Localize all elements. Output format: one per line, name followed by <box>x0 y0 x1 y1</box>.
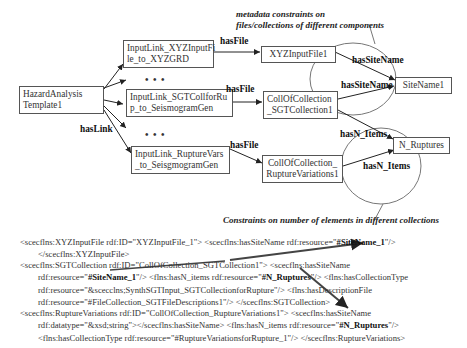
node-sitename: SiteName1 <box>395 77 452 94</box>
node-label: HazardAnalysis <box>23 89 100 100</box>
code-line: <scecflns:SGTCollection rdf:ID="CollOfCo… <box>20 259 408 271</box>
node-label: _SGTCollection1 <box>267 105 334 116</box>
node-label: RuptureVariations1 <box>266 169 339 180</box>
ellipsis-1: • • • <box>145 74 166 85</box>
node-label: le_to_XYZGRD <box>127 54 210 65</box>
node-rupture-collection: CollOfCollection_ RuptureVariations1 <box>262 155 343 183</box>
edge-label-hasfile-1: hasFile <box>220 36 248 46</box>
constraints-note: Constraints on number of elements in dif… <box>223 215 439 225</box>
code-highlight-sitename: #SiteName_1 <box>88 272 136 282</box>
node-label: InputLink_SGTCollforRu <box>130 92 229 103</box>
code-line: <scecflns:XYZInputFile rdf:ID="XYZInputF… <box>20 236 396 248</box>
node-inputlink-rupture: InputLink_RuptureVars _to_SeisgmogramGen <box>131 146 230 174</box>
code-line: <scecflns:RuptureVariations rdf:ID="Coll… <box>20 307 405 319</box>
code-highlight-sitename: #SiteName_1 <box>337 237 385 247</box>
edge-label-hassitename-1: hasSiteName <box>352 55 404 65</box>
node-label: Template1 <box>23 100 100 111</box>
code-line: rdf:datatype="&xsd;string"></scecflns:ha… <box>20 319 405 331</box>
node-n-ruptures: N_Ruptures <box>393 137 450 154</box>
node-xyz-input-file: XYZInputFile1 <box>261 46 336 63</box>
code-highlight-nruptures: #N_Ruptures <box>262 272 311 282</box>
code-block-xyz: <scecflns:XYZInputFile rdf:ID="XYZInputF… <box>20 236 396 261</box>
node-sgt-collection: CollOfCollection _SGTCollection1 <box>263 91 338 119</box>
edge-label-hasfile-2: hasFile <box>226 84 254 94</box>
node-inputlink-xyz: InputLink_XYZInputFi le_to_XYZGRD <box>123 40 214 68</box>
node-label: InputLink_XYZInputFi <box>127 43 210 54</box>
metadata-note-line2: files/collections of different component… <box>236 20 384 30</box>
code-line: rdf:resource="&scecclns;SynthSGTInput_SG… <box>20 284 408 296</box>
metadata-note-line1: metadata constraints on <box>236 9 325 19</box>
node-hazard-analysis-template: HazardAnalysis Template1 <box>19 86 104 114</box>
edge-label-hasnitems-1: hasN_Items <box>340 129 387 139</box>
code-highlight-nruptures: #N_Ruptures <box>339 320 388 330</box>
edge-label-hasnitems-2: hasN_Items <box>363 161 410 171</box>
code-line: <flns:hasCollectionType rdf:resource="#R… <box>20 332 405 344</box>
ellipsis-2: • • • <box>145 129 166 140</box>
node-label: _to_SeisgmogramGen <box>135 160 226 171</box>
edge-label-haslink: hasLink <box>80 124 113 134</box>
node-label: SiteName1 <box>399 80 448 91</box>
node-label: CollOfCollection <box>267 94 334 105</box>
node-label: XYZInputFile1 <box>265 49 332 60</box>
node-label: p_to_SeismogramGen <box>130 103 229 114</box>
node-label: N_Ruptures <box>397 140 446 151</box>
node-label: CollOfCollection_ <box>266 158 339 169</box>
node-inputlink-sgt: InputLink_SGTCollforRu p_to_SeismogramGe… <box>126 89 233 117</box>
edge-label-hasfile-3: hasFile <box>230 140 258 150</box>
code-line: rdf:resource="#SiteName_1"/> <flns:hasN_… <box>20 271 408 283</box>
edge-label-hassitename-2: hasSiteName <box>341 80 393 90</box>
code-block-rupture: <scecflns:RuptureVariations rdf:ID="Coll… <box>20 307 405 344</box>
code-block-sgt: <scecflns:SGTCollection rdf:ID="CollOfCo… <box>20 259 408 308</box>
node-label: InputLink_RuptureVars <box>135 149 226 160</box>
